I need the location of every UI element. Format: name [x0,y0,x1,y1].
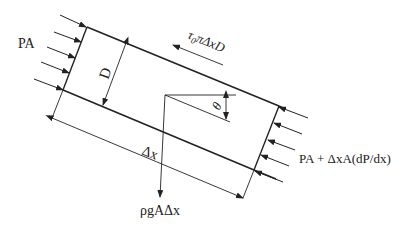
right-pressure-label: PA + ΔxA(dP/dx) [299,151,391,166]
pipe-bottom-wall [63,90,254,170]
right-pressure-arrows [255,107,308,182]
pipe-top-wall [87,27,279,106]
weight-label: ρgAΔx [140,203,180,218]
pipe-element [63,27,283,179]
diameter-label: D [96,65,115,81]
pipe-element-diagram: PA D τ0πΔxD θ Δx ρgAΔx PA + ΔxA(dP/dx) [0,0,412,227]
length-label: Δx [140,143,160,163]
weight-arrow [160,95,165,197]
left-pressure-label: PA [18,36,36,51]
angle-label: θ [209,99,225,113]
left-pressure-arrows [34,15,86,90]
length-dimension [52,90,254,198]
